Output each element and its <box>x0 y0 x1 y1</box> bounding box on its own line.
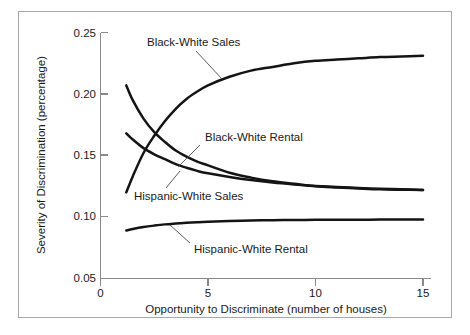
curve-black-white-sales <box>126 56 423 193</box>
line-chart-svg: 0.25 0.20 0.15 0.10 0.05 0 5 10 15 Oppor… <box>0 0 470 335</box>
label-hispanic-white-rental: Hispanic-White Rental <box>194 243 308 255</box>
annotation-leaders <box>166 51 222 243</box>
series-curves <box>126 56 423 231</box>
curve-hispanic-white-rental <box>126 219 423 230</box>
leader-hispanic-white-sales <box>166 171 180 188</box>
x-tick-label-0: 0 <box>97 287 103 299</box>
x-tick-label-10: 10 <box>309 287 322 299</box>
label-black-white-rental: Black-White Rental <box>205 131 303 143</box>
leader-hispanic-white-rental <box>170 225 190 243</box>
y-tick-label-0.20: 0.20 <box>74 88 96 100</box>
leader-black-white-sales <box>196 51 222 79</box>
label-hispanic-white-sales: Hispanic-White Sales <box>134 190 244 202</box>
label-black-white-sales: Black-White Sales <box>147 36 241 48</box>
x-tick-label-15: 15 <box>417 287 430 299</box>
y-axis-title: Severity of Discrimination (percentage) <box>35 56 47 254</box>
chart-figure: 0.25 0.20 0.15 0.10 0.05 0 5 10 15 Oppor… <box>0 0 470 335</box>
y-tick-label-0.15: 0.15 <box>74 149 96 161</box>
y-tick-label-0.05: 0.05 <box>74 272 96 284</box>
x-tick-label-5: 5 <box>205 287 211 299</box>
x-axis-title: Opportunity to Discriminate (number of h… <box>145 303 387 315</box>
y-tick-label-0.10: 0.10 <box>74 210 96 222</box>
y-tick-labels: 0.25 0.20 0.15 0.10 0.05 <box>74 27 96 284</box>
leader-black-white-rental <box>178 145 200 167</box>
y-tick-label-0.25: 0.25 <box>74 27 96 39</box>
x-tick-labels: 0 5 10 15 <box>97 287 429 299</box>
